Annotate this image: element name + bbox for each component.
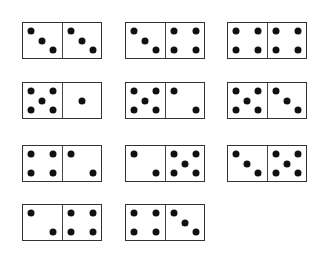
domino-3-3 [22,22,102,59]
pip-icon [89,46,96,53]
pip-icon [50,46,57,53]
domino-half-left [23,146,62,181]
domino-half-left [126,83,165,118]
domino-half-right [267,23,307,58]
domino-half-left [126,205,165,240]
domino-half-left [23,83,62,118]
domino-half-right [62,146,102,181]
pip-icon [131,28,138,35]
pip-icon [78,97,85,104]
domino-half-right [165,83,205,118]
pip-icon [294,151,301,158]
domino-4-4 [227,22,307,59]
pip-icon [89,210,96,217]
pip-icon [192,169,199,176]
pip-icon [153,46,160,53]
pip-icon [272,151,279,158]
domino-half-left [228,83,267,118]
pip-icon [28,88,35,95]
pip-icon [170,88,177,95]
domino-half-left [23,205,62,240]
pip-icon [67,210,74,217]
pip-icon [50,106,57,113]
domino-half-left [126,23,165,58]
pip-icon [170,169,177,176]
pip-icon [192,28,199,35]
domino-half-left [23,23,62,58]
pip-icon [233,88,240,95]
pip-icon [78,37,85,44]
domino-3-4 [125,22,205,59]
pip-icon [272,88,279,95]
pip-icon [233,28,240,35]
pip-icon [192,106,199,113]
domino-half-right [267,83,307,118]
pip-icon [153,88,160,95]
pip-icon [153,106,160,113]
domino-2-4 [22,204,102,241]
pip-icon [192,151,199,158]
pip-icon [28,169,35,176]
pip-icon [244,97,251,104]
pip-icon [181,160,188,167]
domino-5-3 [227,82,307,119]
pip-icon [170,28,177,35]
pip-icon [283,97,290,104]
pip-icon [272,169,279,176]
pip-icon [67,28,74,35]
domino-half-right [165,205,205,240]
pip-icon [142,37,149,44]
domino-half-left [228,23,267,58]
pip-icon [50,151,57,158]
domino-4-2 [22,145,102,182]
domino-half-right [62,23,102,58]
pip-icon [142,97,149,104]
pip-icon [233,151,240,158]
domino-half-right [267,146,307,181]
pip-icon [131,210,138,217]
pip-icon [28,151,35,158]
pip-icon [255,169,262,176]
pip-icon [153,228,160,235]
pip-icon [192,228,199,235]
pip-icon [181,219,188,226]
pip-icon [50,88,57,95]
pip-icon [294,169,301,176]
pip-icon [192,46,199,53]
domino-half-right [62,83,102,118]
pip-icon [255,106,262,113]
pip-icon [131,228,138,235]
pip-icon [272,46,279,53]
pip-icon [170,210,177,217]
pip-icon [131,88,138,95]
domino-2-5 [125,145,205,182]
pip-icon [28,210,35,217]
pip-icon [153,169,160,176]
pip-icon [67,228,74,235]
pip-icon [89,228,96,235]
pip-icon [131,106,138,113]
pip-icon [39,97,46,104]
domino-half-right [62,205,102,240]
pip-icon [233,106,240,113]
pip-icon [283,160,290,167]
pip-icon [272,28,279,35]
domino-4-3 [125,204,205,241]
pip-icon [50,228,57,235]
domino-half-left [228,146,267,181]
pip-icon [131,151,138,158]
pip-icon [233,46,240,53]
pip-icon [39,37,46,44]
pip-icon [255,28,262,35]
pip-icon [170,46,177,53]
pip-icon [255,88,262,95]
domino-half-right [165,146,205,181]
domino-5-1 [22,82,102,119]
pip-icon [294,46,301,53]
pip-icon [89,169,96,176]
pip-icon [294,28,301,35]
domino-5-2 [125,82,205,119]
domino-half-right [165,23,205,58]
pip-icon [170,151,177,158]
pip-icon [153,210,160,217]
